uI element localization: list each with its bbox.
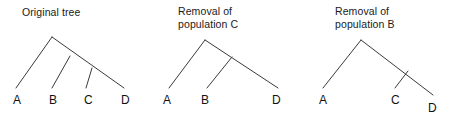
branch-root-to-D	[361, 40, 433, 95]
tip-label-B: B	[49, 93, 57, 107]
branch-node-to-C	[86, 68, 92, 88]
panel-removal-of-population-c: Removal of population C A B D	[150, 0, 305, 114]
tip-label-B: B	[201, 93, 209, 107]
branch-root-to-A	[323, 40, 361, 88]
tip-label-A: A	[163, 93, 171, 107]
tip-label-D: D	[121, 93, 130, 107]
tip-label-D: D	[272, 93, 281, 107]
tip-label-D: D	[428, 101, 437, 114]
branch-root-to-A	[169, 40, 205, 88]
branch-root-to-A	[16, 37, 52, 88]
panel-removal-of-population-b: Removal of population B A C D	[305, 0, 451, 114]
branch-node-to-C	[395, 71, 408, 88]
tip-label-C: C	[84, 93, 93, 107]
tip-label-A: A	[319, 93, 327, 107]
tip-label-A: A	[13, 93, 21, 107]
tip-label-C: C	[391, 93, 400, 107]
tree-diagram-removal-c	[150, 0, 305, 114]
branch-node-to-B	[52, 56, 70, 88]
panel-original-tree: Original tree A B C D	[0, 0, 150, 114]
figure-root: Original tree A B C D Removal of populat…	[0, 0, 451, 114]
branch-root-to-D	[205, 40, 278, 88]
branch-node-to-B	[207, 57, 232, 88]
